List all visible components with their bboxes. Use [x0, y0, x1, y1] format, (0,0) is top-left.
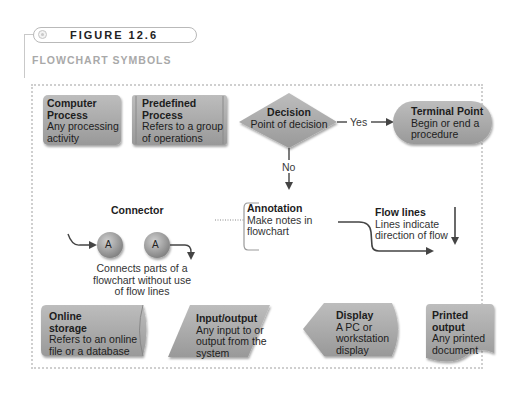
computer-process-text: Computer Process Any processing activity	[47, 98, 119, 144]
computer-process-desc-1: Any processing	[47, 121, 119, 133]
connector-letter-out: A	[152, 239, 159, 250]
decision-text: Decision Point of decision	[245, 107, 333, 130]
predefined-process-text: Predefined Process Refers to a group of …	[142, 98, 223, 144]
terminal-point-text: Terminal Point Begin or end a procedure	[411, 106, 483, 141]
display-desc-3: display	[336, 345, 389, 357]
input-output-desc-2: output from the	[196, 336, 267, 348]
annotation-name: Annotation	[247, 203, 312, 215]
flow-lines-name: Flow lines	[375, 207, 448, 219]
printed-output-desc-2: document	[432, 345, 485, 357]
printed-output-desc-1: Any printed	[432, 333, 485, 345]
display-name: Display	[336, 310, 389, 322]
annotation-text: Annotation Make notes in flowchart	[247, 203, 312, 238]
printed-output-name-1: Printed	[432, 310, 485, 322]
annotation-desc-2: flowchart	[247, 226, 312, 238]
online-storage-name-1: Online	[49, 311, 137, 323]
display-text: Display A PC or workstation display	[336, 310, 389, 356]
connector-title: Connector	[111, 205, 164, 217]
predefined-process-name-1: Predefined	[142, 98, 223, 110]
computer-process-desc-2: activity	[47, 133, 119, 145]
connector-desc-3: of flow lines	[82, 286, 202, 298]
computer-process-name-1: Computer	[47, 98, 119, 110]
online-storage-desc-1: Refers to an online	[49, 334, 137, 346]
terminal-point-desc-2: procedure	[411, 129, 483, 141]
input-output-desc-3: system	[196, 348, 267, 360]
online-storage-desc-2: file or a database	[49, 346, 137, 358]
online-storage-text: Online storage Refers to an online file …	[49, 311, 137, 357]
decision-name: Decision	[245, 107, 333, 119]
connector-desc-1: Connects parts of a	[82, 263, 202, 275]
flow-lines-text: Flow lines Lines indicate direction of f…	[375, 207, 448, 242]
connector-letter-in: A	[105, 239, 112, 250]
terminal-point-name: Terminal Point	[411, 106, 483, 118]
predefined-process-desc-2: of operations	[142, 133, 223, 145]
predefined-process-desc-1: Refers to a group	[142, 121, 223, 133]
printed-output-text: Printed output Any printed document	[432, 310, 485, 356]
display-desc-2: workstation	[336, 333, 389, 345]
connector-desc: Connects parts of a flowchart without us…	[82, 263, 202, 298]
input-output-name: Input/output	[196, 313, 267, 325]
yes-label: Yes	[350, 116, 367, 128]
no-label: No	[282, 161, 295, 173]
decision-desc: Point of decision	[245, 119, 333, 131]
input-output-text: Input/output Any input to or output from…	[196, 313, 267, 359]
flow-lines-desc-2: direction of flow	[375, 230, 448, 242]
connector-name: Connector	[111, 205, 164, 217]
